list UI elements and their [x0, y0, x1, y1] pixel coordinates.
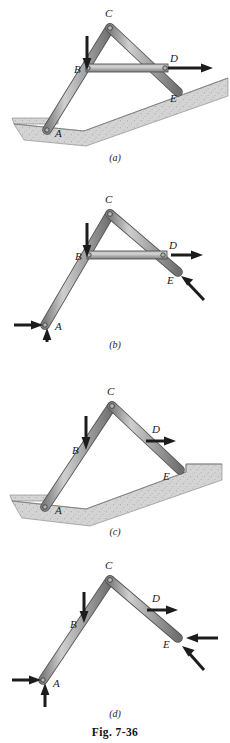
label-a-c: A: [54, 504, 62, 516]
pin-a-d: [41, 678, 45, 682]
member-bd-b: [87, 251, 167, 259]
label-e-d: E: [162, 638, 170, 650]
label-b-c: B: [72, 444, 79, 456]
member-ce-a: [110, 28, 178, 92]
label-d-b: D: [168, 239, 177, 251]
arrow-reaction-a-vertical-d: [41, 683, 50, 707]
panel-c-diagram: C B D A E: [0, 370, 230, 530]
pin-a-a: [45, 128, 49, 132]
pin-a-c: [43, 505, 47, 509]
member-ac-a: [47, 28, 110, 130]
caption-panel-b: (b): [0, 339, 230, 350]
label-b-a: B: [74, 63, 81, 75]
arrow-load-d-b: [171, 250, 203, 259]
panel-c: C B D A E (c): [0, 370, 230, 545]
caption-panel-c: (c): [0, 526, 230, 537]
pin-c-d: [108, 578, 113, 583]
caption-panel-d: (d): [0, 708, 230, 719]
label-c-d: C: [105, 559, 113, 571]
label-c-b: C: [105, 193, 113, 205]
label-d-d: D: [151, 592, 160, 604]
label-a-a: A: [54, 127, 62, 139]
member-ac-b: [45, 214, 110, 325]
panel-b: C B D A E (b): [0, 182, 230, 362]
arrow-reaction-e-horizontal-d: [186, 633, 218, 642]
label-b-b: B: [75, 250, 82, 262]
pin-a-b: [43, 323, 47, 327]
arrow-reaction-a-horizontal-b: [14, 320, 43, 329]
member-ce-c: [112, 406, 180, 470]
label-c-a: C: [105, 7, 113, 19]
label-a-b: A: [54, 320, 62, 332]
label-e-c: E: [162, 470, 170, 482]
arrow-reaction-e-normal-b: [181, 276, 204, 300]
pin-d-b: [161, 253, 165, 257]
panel-a-diagram: C B D A E: [0, 0, 230, 155]
pin-d-a: [163, 66, 167, 70]
label-c-c: C: [107, 385, 115, 397]
ground-region-c: [10, 464, 222, 526]
label-d-a: D: [169, 52, 178, 64]
member-bd-a: [86, 64, 168, 72]
member-ac-d: [43, 580, 110, 680]
pin-c-a: [108, 26, 113, 31]
pin-c-c: [110, 404, 115, 409]
arrow-reaction-a-horizontal-d: [12, 675, 41, 684]
ground-region-a: [12, 78, 228, 146]
panel-b-diagram: C B D A E: [0, 182, 230, 342]
pin-c-b: [108, 212, 113, 217]
panel-a: C B D A E (a): [0, 0, 230, 175]
label-b-d: B: [70, 618, 77, 630]
panel-d-diagram: C B D A E: [0, 550, 230, 708]
figure-number-caption: Fig. 7-36: [0, 726, 230, 738]
label-d-c: D: [151, 423, 160, 435]
figure-7-36: C B D A E (a): [0, 0, 230, 743]
arrow-reaction-e-normal-d: [182, 646, 204, 670]
member-ac-c: [45, 406, 112, 507]
member-ce-b: [110, 214, 178, 272]
label-e-b: E: [166, 274, 174, 286]
arrow-load-d-a: [168, 63, 213, 72]
panel-d: C B D A E (d): [0, 550, 230, 720]
label-e-a: E: [169, 92, 177, 104]
caption-panel-a: (a): [0, 152, 230, 163]
label-a-d: A: [52, 677, 60, 689]
